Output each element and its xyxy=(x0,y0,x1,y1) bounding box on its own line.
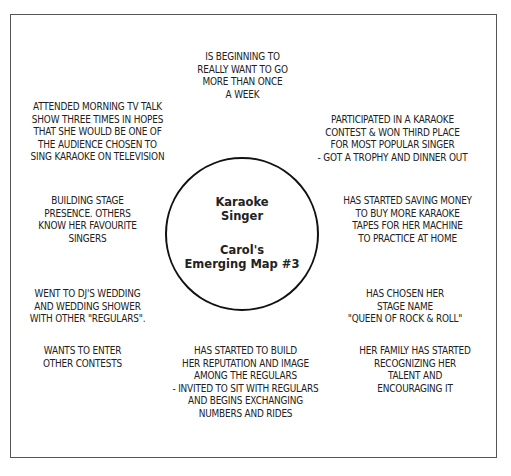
center-title: Karaoke Singer xyxy=(165,195,319,223)
note-top: IS BEGINNING TO REALLY WANT TO GO MORE T… xyxy=(175,51,310,101)
note-upper-right: PARTICIPATED IN A KARAOKE CONTEST & WON … xyxy=(306,114,478,164)
note-bottom-left: WANTS TO ENTER OTHER CONTESTS xyxy=(24,345,140,370)
note-upper-left: ATTENDED MORNING TV TALK SHOW THREE TIME… xyxy=(16,101,179,164)
center-subtitle: Carol's Emerging Map #3 xyxy=(165,243,319,271)
central-circle xyxy=(165,157,319,311)
note-bottom-right: HER FAMILY HAS STARTED RECOGNIZING HER T… xyxy=(345,345,485,395)
note-middle-right: HAS STARTED SAVING MONEY TO BUY MORE KAR… xyxy=(326,195,489,245)
note-lower-left: WENT TO DJ'S WEDDING AND WEDDING SHOWER … xyxy=(20,288,155,326)
note-middle-left: BUILDING STAGE PRESENCE. OTHERS KNOW HER… xyxy=(25,195,151,245)
note-lower-right: HAS CHOSEN HER STAGE NAME "QUEEN OF ROCK… xyxy=(326,288,484,326)
note-bottom-center: HAS STARTED TO BUILD HER REPUTATION AND … xyxy=(164,345,327,421)
